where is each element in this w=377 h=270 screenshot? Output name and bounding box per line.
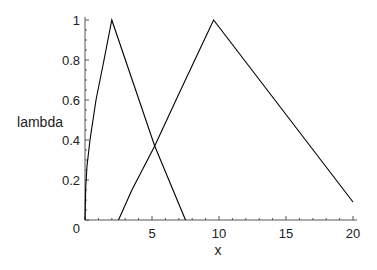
y-tick-label: 0.8 bbox=[62, 53, 80, 68]
chart: 510152000.20.40.60.81 x lambda bbox=[0, 0, 377, 270]
y-tick-label: 0.2 bbox=[62, 173, 80, 188]
y-tick-label: 0.4 bbox=[62, 133, 80, 148]
x-tick-label: 10 bbox=[212, 226, 226, 241]
x-tick-label: 5 bbox=[148, 226, 155, 241]
y-tick-label: 1 bbox=[73, 13, 80, 28]
series-line-1 bbox=[85, 20, 186, 220]
y-tick-label: 0 bbox=[73, 221, 80, 236]
x-axis-label: x bbox=[215, 242, 222, 258]
series-line-2 bbox=[119, 20, 354, 220]
series-lines bbox=[85, 20, 353, 220]
x-tick-label: 20 bbox=[346, 226, 360, 241]
x-tick-label: 15 bbox=[279, 226, 293, 241]
y-axis-label: lambda bbox=[17, 114, 63, 130]
y-tick-label: 0.6 bbox=[62, 93, 80, 108]
